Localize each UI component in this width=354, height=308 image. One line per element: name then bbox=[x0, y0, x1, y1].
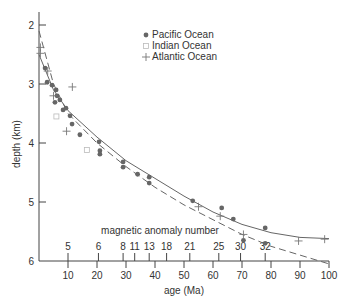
x-tick-label: 60 bbox=[207, 270, 219, 281]
anomaly-tick-label: 5 bbox=[65, 241, 71, 252]
data-point bbox=[239, 230, 247, 238]
data-point bbox=[241, 238, 246, 243]
legend-label: Indian Ocean bbox=[152, 40, 212, 51]
depth-age-chart: 2345610203040506070809010056811131821253… bbox=[0, 0, 354, 308]
anomaly-tick-label: 8 bbox=[120, 241, 126, 252]
data-point bbox=[77, 132, 82, 137]
y-tick-label: 4 bbox=[28, 138, 34, 149]
data-point bbox=[36, 49, 44, 57]
anomaly-tick-label: 6 bbox=[96, 241, 102, 252]
data-point bbox=[231, 217, 236, 222]
legend-label: Pacific Ocean bbox=[152, 29, 214, 40]
legend-label: Atlantic Ocean bbox=[152, 51, 217, 62]
data-point bbox=[219, 206, 224, 211]
data-point bbox=[98, 152, 103, 157]
data-point bbox=[97, 139, 102, 144]
data-point bbox=[135, 172, 140, 177]
data-point bbox=[70, 122, 75, 127]
x-tick-label: 30 bbox=[120, 270, 132, 281]
data-point bbox=[195, 203, 203, 211]
data-point bbox=[84, 148, 89, 153]
x-tick-label: 100 bbox=[321, 270, 338, 281]
data-point bbox=[45, 80, 50, 85]
data-point bbox=[54, 114, 59, 119]
data-point bbox=[68, 113, 73, 118]
data-point bbox=[263, 226, 268, 231]
data-point bbox=[43, 66, 48, 71]
y-tick-label: 2 bbox=[28, 20, 34, 31]
data-point bbox=[68, 83, 76, 91]
data-point bbox=[50, 92, 58, 100]
data-point bbox=[121, 165, 126, 170]
y-tick-label: 5 bbox=[28, 197, 34, 208]
data-point bbox=[190, 198, 195, 203]
x-tick-label: 50 bbox=[178, 270, 190, 281]
x-tick-label: 80 bbox=[265, 270, 277, 281]
legend-marker bbox=[144, 44, 149, 49]
x-tick-label: 90 bbox=[294, 270, 306, 281]
y-tick-label: 6 bbox=[28, 256, 34, 267]
data-point bbox=[147, 181, 152, 186]
y-axis-title: depth (km) bbox=[11, 120, 22, 168]
data-point bbox=[50, 83, 55, 88]
data-point bbox=[64, 106, 69, 111]
solid-fit bbox=[39, 55, 329, 239]
legend-marker bbox=[144, 33, 149, 38]
anomaly-tick-label: 30 bbox=[235, 241, 247, 252]
x-tick-label: 40 bbox=[149, 270, 161, 281]
y-tick-label: 3 bbox=[28, 79, 34, 90]
data-point bbox=[147, 175, 152, 180]
secondary-axis-title: magnetic anomaly number bbox=[101, 225, 220, 236]
data-point bbox=[295, 237, 303, 245]
data-point bbox=[53, 100, 58, 105]
legend: Pacific OceanIndian OceanAtlantic Ocean bbox=[142, 29, 217, 62]
legend-marker bbox=[142, 53, 150, 61]
data-point bbox=[321, 235, 329, 243]
anomaly-tick-label: 18 bbox=[161, 241, 173, 252]
data-point bbox=[63, 127, 71, 135]
anomaly-tick-label: 13 bbox=[144, 241, 156, 252]
x-axis-title: age (Ma) bbox=[164, 285, 204, 296]
anomaly-tick-label: 21 bbox=[184, 241, 196, 252]
x-tick-label: 10 bbox=[62, 270, 74, 281]
x-tick-label: 20 bbox=[91, 270, 103, 281]
x-tick-label: 70 bbox=[236, 270, 248, 281]
anomaly-tick-label: 25 bbox=[213, 241, 225, 252]
data-point bbox=[263, 241, 268, 246]
data-point bbox=[57, 98, 62, 103]
data-points bbox=[36, 43, 328, 245]
data-point bbox=[54, 88, 59, 93]
anomaly-tick-label: 11 bbox=[130, 241, 141, 252]
data-point bbox=[121, 159, 126, 164]
